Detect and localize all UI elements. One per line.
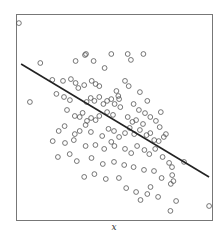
data-points	[17, 21, 212, 214]
data-point	[100, 162, 105, 167]
data-point	[125, 52, 130, 57]
data-point	[168, 209, 173, 214]
data-point	[131, 102, 136, 107]
data-point	[67, 152, 72, 157]
data-point	[116, 94, 121, 99]
data-point	[159, 176, 164, 181]
data-point	[109, 52, 114, 57]
data-point	[123, 147, 128, 152]
plot-frame	[17, 15, 213, 221]
data-point	[156, 139, 161, 144]
data-point	[89, 130, 94, 135]
data-point	[71, 138, 76, 143]
data-point	[142, 148, 147, 153]
data-point	[111, 113, 116, 118]
data-point	[123, 131, 128, 136]
data-point	[138, 128, 143, 133]
data-point	[109, 140, 114, 145]
data-point	[91, 59, 96, 64]
data-point	[56, 129, 61, 134]
data-point	[117, 176, 122, 181]
data-point	[129, 58, 134, 63]
data-point	[97, 114, 102, 119]
data-point	[93, 143, 98, 148]
data-point	[168, 182, 173, 187]
data-point	[171, 179, 176, 184]
data-point	[137, 108, 142, 113]
data-point	[112, 160, 117, 165]
data-point	[152, 169, 157, 174]
data-point	[129, 151, 134, 156]
data-point	[147, 152, 152, 157]
data-point	[131, 165, 136, 170]
data-point	[72, 114, 77, 119]
data-point	[170, 173, 175, 178]
data-point	[152, 138, 157, 143]
data-point	[174, 199, 179, 204]
data-point	[92, 99, 97, 104]
data-point	[82, 175, 87, 180]
data-point	[102, 66, 107, 71]
data-point	[89, 116, 94, 121]
data-point	[112, 102, 117, 107]
data-point	[148, 115, 153, 120]
data-point	[138, 90, 143, 95]
data-point	[135, 144, 140, 149]
data-point	[103, 177, 108, 182]
data-point	[62, 124, 67, 129]
data-point	[56, 155, 61, 160]
data-point	[126, 84, 131, 89]
data-point	[63, 141, 68, 146]
data-point	[28, 100, 33, 105]
data-point	[138, 198, 143, 203]
data-point	[89, 156, 94, 161]
data-point	[72, 132, 77, 137]
data-point	[141, 52, 146, 57]
data-point	[93, 118, 98, 123]
data-point	[124, 186, 129, 191]
data-point	[143, 111, 148, 116]
data-point	[141, 122, 146, 127]
data-point	[134, 190, 139, 195]
data-point	[65, 108, 70, 113]
data-point	[153, 147, 158, 152]
data-point	[148, 131, 153, 136]
data-point	[100, 134, 105, 139]
data-point	[117, 97, 122, 102]
data-point	[77, 129, 82, 134]
data-point	[50, 139, 55, 144]
data-point	[76, 86, 81, 91]
data-point	[207, 204, 212, 209]
data-point	[112, 144, 117, 149]
data-point	[62, 95, 67, 100]
data-point	[38, 61, 43, 66]
data-point	[122, 163, 127, 168]
scatter-plot: x	[0, 0, 223, 240]
data-point	[125, 115, 130, 120]
data-point	[97, 95, 102, 100]
data-point	[102, 147, 107, 152]
data-point	[148, 185, 153, 190]
data-point	[69, 77, 74, 82]
data-point	[114, 89, 119, 94]
data-point	[142, 168, 147, 173]
data-point	[74, 159, 79, 164]
data-point	[83, 144, 88, 149]
data-point	[106, 126, 111, 131]
data-point	[157, 125, 162, 130]
data-point	[123, 79, 128, 84]
x-axis-label: x	[111, 222, 116, 232]
data-point	[160, 155, 165, 160]
data-point	[17, 21, 22, 26]
data-point	[156, 195, 161, 200]
data-point	[84, 52, 89, 57]
data-point	[158, 110, 163, 115]
data-point	[118, 105, 123, 110]
data-point	[145, 99, 150, 104]
data-point	[145, 192, 150, 197]
data-point	[61, 79, 66, 84]
data-point	[109, 97, 114, 102]
data-point	[112, 129, 117, 134]
data-point	[73, 81, 78, 86]
data-point	[54, 92, 59, 97]
